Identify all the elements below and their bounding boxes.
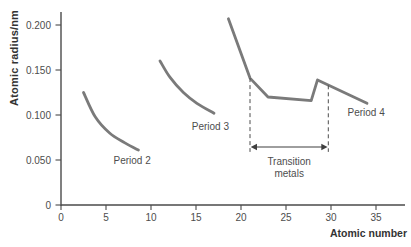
x-axis-title: Atomic number (330, 227, 407, 239)
label-period-3: Period 3 (192, 121, 230, 132)
label-period-2: Period 2 (113, 155, 151, 166)
atomic-radius-vs-atomic-number-figure: 0510152025303500.0500.1000.1500.200Perio… (0, 0, 411, 247)
curve-period-4 (228, 19, 367, 104)
x-tick-label: 25 (280, 212, 292, 223)
y-tick-label: 0.100 (26, 110, 51, 121)
y-tick-label: 0.200 (26, 20, 51, 31)
arrowhead-left-icon (251, 144, 257, 150)
x-tick-label: 35 (370, 212, 382, 223)
x-tick-label: 30 (325, 212, 337, 223)
x-tick-label: 20 (235, 212, 247, 223)
transition-metals-label-line1: Transition (267, 156, 311, 167)
transition-metals-label-line2: metals (274, 168, 303, 179)
x-tick-label: 10 (145, 212, 157, 223)
curve-period-2 (84, 93, 139, 151)
x-tick-label: 15 (190, 212, 202, 223)
x-tick-label: 5 (103, 212, 109, 223)
y-tick-label: 0.150 (26, 65, 51, 76)
arrowhead-right-icon (321, 144, 327, 150)
y-tick-label: 0 (45, 200, 51, 211)
chart-canvas: 0510152025303500.0500.1000.1500.200Perio… (0, 0, 411, 247)
y-axis-title: Atomic radius/nm (8, 10, 20, 106)
label-period-4: Period 4 (347, 107, 385, 118)
y-tick-label: 0.050 (26, 155, 51, 166)
x-tick-label: 0 (58, 212, 64, 223)
curve-period-3 (160, 61, 214, 113)
